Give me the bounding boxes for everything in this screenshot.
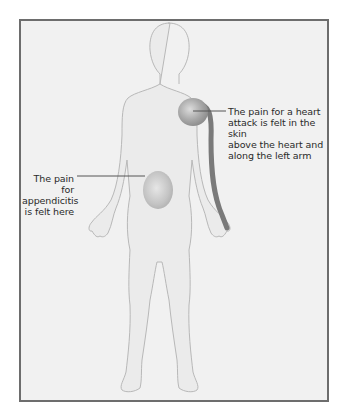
appendicitis-label-line: is felt here — [22, 206, 74, 217]
appendicitis-label-line: appendicitis — [22, 195, 74, 206]
appendicitis-pain-region — [143, 171, 173, 209]
heart-label-line: along the left arm — [228, 150, 328, 161]
heart-label-line: The pain for a heart — [228, 106, 328, 117]
heart-pain-region — [178, 98, 208, 126]
heart-label-line: attack is felt in the skin — [228, 117, 328, 139]
appendicitis-label-line: The pain for — [22, 173, 74, 195]
appendicitis-label: The pain for appendicitis is felt here — [22, 173, 74, 217]
heart-label-line: above the heart and — [228, 139, 328, 150]
heart-attack-label: The pain for a heart attack is felt in t… — [228, 106, 328, 161]
